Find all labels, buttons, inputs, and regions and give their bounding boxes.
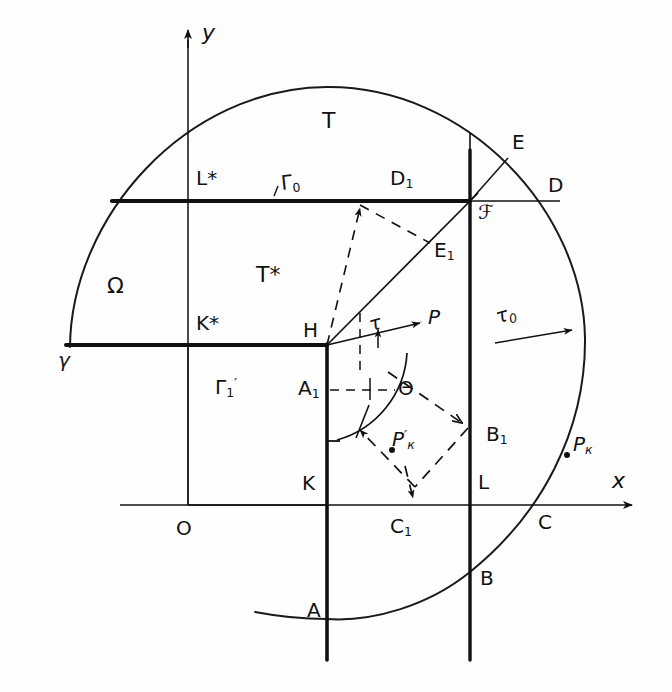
dashed-D1-to-E1 [360, 205, 430, 243]
point-B1-subscript: 1 [500, 432, 508, 447]
origin-label: O [176, 518, 192, 538]
gamma-one-subscript: 1 [226, 385, 234, 400]
point-L-star-label: L* [196, 168, 217, 188]
point-E1-letter: E [434, 238, 447, 262]
point-K-star-label: K* [196, 313, 219, 333]
diagram-svg [0, 0, 672, 692]
region-omega-label: Ω [107, 275, 124, 297]
point-A1-label: A1 [298, 378, 320, 401]
point-A1-subscript: 1 [312, 386, 320, 401]
point-B1-label: B1 [486, 424, 508, 447]
point-A-label: A [307, 600, 321, 620]
tau-zero-leader [495, 330, 572, 343]
point-D1-subscript: 1 [405, 176, 413, 191]
point-Pk-prime-letter: P [392, 427, 404, 451]
point-F-label: ℱ [478, 202, 494, 222]
point-C1-letter: C [390, 514, 404, 538]
point-Pk-prime-subscript: к [407, 437, 414, 452]
y-axis-label: y [202, 22, 215, 44]
point-E-label: E [512, 132, 525, 152]
gamma-one-prime-label: Γ1′ [215, 376, 237, 400]
point-C1-label: C1 [390, 516, 412, 539]
point-H-label: H [303, 320, 318, 340]
point-P-dot [421, 322, 422, 323]
point-Pk-subscript: к [585, 442, 592, 457]
region-T-label: T [322, 110, 335, 132]
point-E1-label: E1 [434, 240, 455, 263]
point-Pk-prime-label: P′к [392, 428, 415, 452]
point-K-label: K [302, 473, 315, 493]
point-C-label: C [538, 512, 552, 532]
gamma-label: γ [58, 350, 70, 370]
point-P-label: P [428, 307, 440, 327]
point-Pk-letter: P [573, 432, 585, 456]
gamma-one-letter: Γ [215, 375, 226, 399]
tau-letter: τ [366, 312, 383, 335]
region-Tstar-label: T* [256, 264, 280, 286]
tau-label: τ [369, 313, 381, 333]
point-D1-letter: D [390, 166, 405, 190]
angle-theta-label: Θ [398, 378, 414, 398]
point-D-label: D [548, 175, 563, 195]
gamma-zero-label: Γ0 [281, 172, 300, 195]
point-A1-letter: A [298, 376, 312, 400]
tau-zero-label: τ0 [496, 304, 516, 327]
point-Pk-label: Pк [573, 434, 593, 457]
diagonal-ray-HF [327, 193, 478, 345]
point-B-label: B [480, 568, 494, 588]
point-C1-subscript: 1 [404, 524, 412, 539]
point-E1-subscript: 1 [447, 248, 455, 263]
x-axis-label: x [612, 470, 625, 492]
point-B1-letter: B [486, 422, 500, 446]
point-Pk-dot [564, 452, 570, 458]
dashed-A1-horizontal [330, 378, 395, 400]
point-D1-label: D1 [390, 168, 413, 191]
gamma-zero-leader [274, 186, 278, 196]
dashed-H-to-D1 [327, 208, 360, 345]
point-L-label: L [478, 472, 489, 492]
gamma-zero-subscript: 0 [292, 179, 301, 195]
figure-canvas: y x O T T* Ω γ Γ0 Γ1′ τ τ0 A B C D E ℱ H… [0, 0, 672, 692]
gamma-one-prime-mark: ′ [234, 375, 237, 391]
